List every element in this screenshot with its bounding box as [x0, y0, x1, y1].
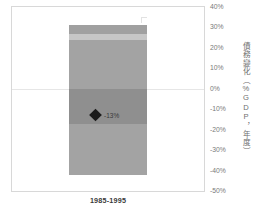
y-tick-label: 40% — [210, 4, 224, 11]
y-axis-title: 債務變化（%GDP，年度） — [236, 6, 256, 192]
y-tick-label: -30% — [210, 147, 226, 154]
net-change-marker-group[interactable]: -13% — [91, 111, 119, 120]
y-tick-label: 20% — [210, 44, 224, 51]
x-axis-category-label: 1985-1995 — [11, 196, 205, 205]
bar-segment-segment-bottom — [69, 124, 147, 175]
y-tick-label: -40% — [210, 167, 226, 174]
y-tick-label: -10% — [210, 106, 226, 113]
y-tick-label: 30% — [210, 24, 224, 31]
plot-area: -13% — [11, 6, 205, 192]
stacked-bar[interactable] — [69, 25, 147, 174]
y-tick-label: 10% — [210, 65, 224, 72]
diamond-marker — [89, 109, 102, 122]
bar-segment-segment-top — [69, 25, 147, 33]
y-tick-label: -50% — [210, 188, 226, 195]
y-tick-label: 0% — [210, 85, 220, 92]
chart-container: -13% 40%30%20%10%0%-10%-20%-30%-40%-50% … — [0, 0, 262, 212]
y-tick-label: -20% — [210, 126, 226, 133]
bar-segment-segment-upper-mid — [69, 40, 147, 89]
net-change-label: -13% — [104, 112, 119, 119]
top-tick-mark — [141, 17, 147, 23]
